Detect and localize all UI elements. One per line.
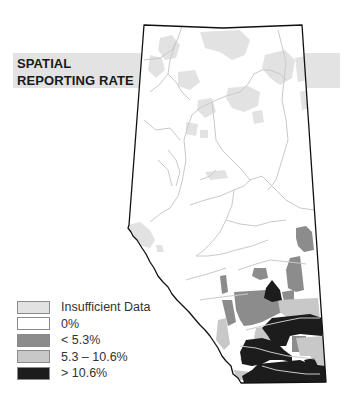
legend-label: Insufficient Data [61,300,150,314]
legend-swatch [17,301,50,314]
legend-label: < 5.3% [61,333,100,347]
map-title-line1: SPATIAL [17,55,134,72]
legend-item-zero: 0% [17,316,150,333]
legend-swatch [17,350,50,363]
legend-item-high: > 10.6% [17,365,150,382]
legend-item-insufficient: Insufficient Data [17,299,150,316]
legend-label: 5.3 – 10.6% [61,350,128,364]
map-title: SPATIAL REPORTING RATE [17,55,134,89]
legend-label: > 10.6% [61,366,107,380]
legend-item-low: < 5.3% [17,332,150,349]
legend-label: 0% [61,317,79,331]
legend-item-mid: 5.3 – 10.6% [17,349,150,366]
legend-swatch [17,367,50,380]
legend: Insufficient Data 0% < 5.3% 5.3 – 10.6% … [17,299,150,382]
legend-swatch [17,317,50,330]
map-title-line2: REPORTING RATE [17,72,134,89]
legend-swatch [17,334,50,347]
